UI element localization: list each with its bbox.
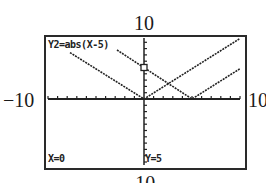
graph-plot <box>0 0 266 183</box>
x-coordinate-readout: X=0 <box>48 154 65 164</box>
function-label: Y2=abs(X-5) <box>48 40 109 50</box>
graph-y2-abs-x-minus-5 <box>117 50 240 99</box>
y-coordinate-readout: Y=5 <box>145 154 162 164</box>
trace-cursor <box>141 65 147 71</box>
